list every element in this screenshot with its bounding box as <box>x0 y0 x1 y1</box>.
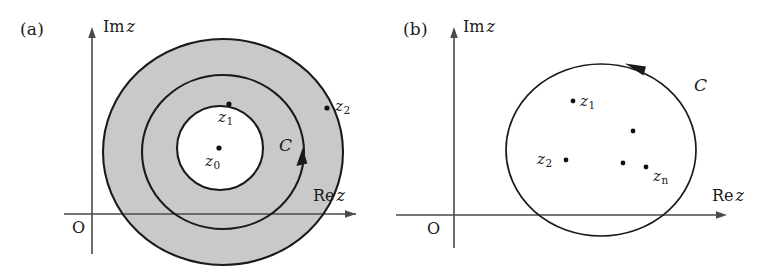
contour-circle <box>506 64 696 236</box>
panel-b-label-zn: zn <box>653 169 668 184</box>
point-zn <box>644 165 649 170</box>
panel-a-origin-label: O <box>72 220 85 236</box>
zn-base: z <box>653 167 661 185</box>
panel-a-label-z2: z2 <box>335 99 350 114</box>
re-var: z <box>734 186 744 205</box>
z1-base: z <box>218 108 226 126</box>
panel-b-tag: (b) <box>403 21 428 38</box>
z2-sub: 2 <box>545 157 552 169</box>
point-z1 <box>571 99 576 104</box>
panel-a-label-z0: z0 <box>205 154 220 169</box>
panel-a-real-axis-label: Rez <box>313 188 345 204</box>
point-z2 <box>564 158 569 163</box>
panel-b-origin-label: O <box>427 221 440 237</box>
panel-a-graphic <box>0 0 388 278</box>
panel-b-contour-label: C <box>694 77 707 94</box>
panel-a-label-z1: z1 <box>218 110 233 125</box>
re-var: z <box>335 186 345 205</box>
z1-sub: 1 <box>588 99 595 111</box>
z1-base: z <box>580 92 588 110</box>
z0-sub: 0 <box>213 159 220 171</box>
figure-root: (a) Imz Rez O z0 z1 z2 C <box>0 0 777 278</box>
zn-sub: n <box>661 174 668 186</box>
z0-base: z <box>205 152 213 170</box>
re-prefix: Re <box>712 186 734 205</box>
re-prefix: Re <box>313 186 335 205</box>
contour-direction-arrow <box>625 64 646 76</box>
panel-a-contour-label: C <box>279 137 292 154</box>
z2-base: z <box>335 97 343 115</box>
im-prefix: Im <box>103 17 125 36</box>
panel-b-label-z2: z2 <box>537 152 552 167</box>
z1-sub: 1 <box>226 115 233 127</box>
panel-a: (a) Imz Rez O z0 z1 z2 C <box>0 0 388 278</box>
im-prefix: Im <box>463 17 485 36</box>
z2-sub: 2 <box>343 104 350 116</box>
panel-b-axes <box>396 27 727 248</box>
point-z0 <box>216 145 221 150</box>
im-var: z <box>485 17 495 36</box>
panel-b-real-axis-label: Rez <box>712 188 744 204</box>
panel-b-label-z1: z1 <box>580 94 595 109</box>
panel-b-imaginary-axis-label: Imz <box>463 19 495 35</box>
panel-b-graphic <box>388 0 777 278</box>
im-var: z <box>125 17 135 36</box>
point-z2 <box>324 105 329 110</box>
point-z1 <box>226 101 231 106</box>
z2-base: z <box>537 150 545 168</box>
point-unlabeled-2 <box>621 161 626 166</box>
panel-a-tag: (a) <box>20 21 44 38</box>
panel-b: (b) Imz Rez O z1 z2 zn C <box>388 0 777 278</box>
point-unlabeled-1 <box>631 129 636 134</box>
panel-a-imaginary-axis-label: Imz <box>103 19 135 35</box>
